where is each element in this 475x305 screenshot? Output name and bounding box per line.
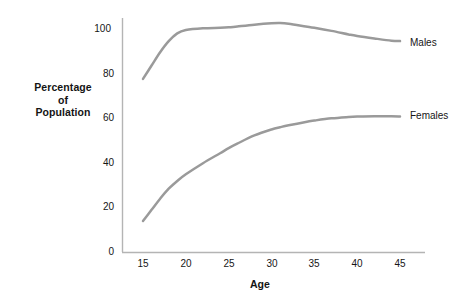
- y-tick-label-20: 20: [88, 201, 114, 212]
- y-tick-label-0: 0: [88, 246, 114, 257]
- x-tick-label-30: 30: [260, 258, 284, 269]
- x-tick-label-40: 40: [345, 258, 369, 269]
- x-tick-label-20: 20: [174, 258, 198, 269]
- series-label-males: Males: [410, 37, 437, 48]
- x-axis-title: Age: [160, 278, 360, 291]
- x-tick-label-25: 25: [217, 258, 241, 269]
- x-tick-label-35: 35: [302, 258, 326, 269]
- x-tick-label-15: 15: [131, 258, 155, 269]
- y-axis-title-line-2: of: [20, 94, 106, 107]
- x-tick-label-45: 45: [388, 258, 412, 269]
- y-tick-label-60: 60: [88, 112, 114, 123]
- y-tick-label-40: 40: [88, 157, 114, 168]
- y-axis-title-line-1: Percentage: [20, 81, 106, 94]
- series-line-males: [143, 23, 400, 79]
- chart-figure: Percentage of Population Age 0 20 40 60 …: [0, 0, 475, 305]
- y-tick-label-100: 100: [85, 23, 111, 34]
- series-label-females: Females: [410, 110, 448, 121]
- y-tick-label-80: 80: [88, 68, 114, 79]
- series-line-females: [143, 116, 400, 221]
